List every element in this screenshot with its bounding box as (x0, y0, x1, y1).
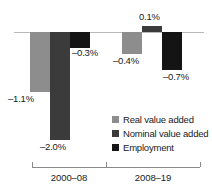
legend-item-nominal-value-added: Nominal value added (112, 127, 208, 140)
legend-label-real-value-added: Real value added (123, 114, 194, 125)
x-axis-category-label-2008-19: 2008–19 (106, 172, 200, 183)
x-axis-tick-middle (106, 162, 107, 167)
bar-2008-19-employment (162, 32, 182, 70)
x-axis-tick-right (200, 162, 201, 167)
x-axis-line (32, 167, 200, 168)
legend-label-employment: Employment (123, 142, 174, 153)
bar-2008-19-nominal-value-added (142, 26, 162, 32)
legend-swatch-icon-real-value-added (112, 116, 119, 123)
bar-2000-08-employment (70, 32, 90, 48)
chart-legend: Real value added Nominal value added Emp… (112, 113, 208, 155)
value-label-2000-08-real: –1.1% (8, 94, 34, 104)
value-label-2000-08-employment: –0.3% (72, 48, 98, 58)
bar-2000-08-real-value-added (30, 32, 50, 92)
value-label-2008-19-nominal: 0.1% (139, 12, 160, 22)
value-label-2008-19-real: –0.4% (113, 56, 139, 66)
value-label-2008-19-employment: –0.7% (163, 72, 189, 82)
legend-item-employment: Employment (112, 141, 208, 154)
bar-2000-08-nominal-value-added (50, 32, 70, 140)
bar-2008-19-real-value-added (122, 32, 142, 54)
x-axis-tick-left (32, 162, 33, 167)
value-label-2000-08-nominal: –2.0% (40, 142, 66, 152)
legend-item-real-value-added: Real value added (112, 113, 208, 126)
legend-swatch-icon-employment (112, 144, 119, 151)
legend-swatch-icon-nominal-value-added (112, 130, 119, 137)
x-axis-category-label-2000-08: 2000–08 (32, 172, 106, 183)
legend-label-nominal-value-added: Nominal value added (123, 128, 208, 139)
bar-chart: –1.1% –2.0% –0.3% –0.4% 0.1% –0.7% Real … (0, 0, 212, 192)
